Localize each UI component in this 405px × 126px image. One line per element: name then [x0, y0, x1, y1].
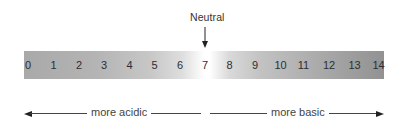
- ph-value-7: 7: [202, 59, 208, 71]
- neutral-label: Neutral: [190, 11, 220, 23]
- ph-value-5: 5: [151, 59, 157, 71]
- ph-value-13: 13: [348, 59, 360, 71]
- ph-value-4: 4: [126, 59, 132, 71]
- ph-value-2: 2: [76, 59, 82, 71]
- basic-direction: more basic: [210, 106, 386, 120]
- right-arrow-icon: [376, 111, 384, 117]
- ph-value-1: 1: [50, 59, 56, 71]
- ph-value-0: 0: [25, 59, 31, 71]
- acidic-direction: more acidic: [24, 106, 201, 120]
- ph-value-12: 12: [323, 59, 335, 71]
- ph-value-9: 9: [252, 59, 258, 71]
- ph-value-14: 14: [372, 59, 384, 71]
- acidic-label: more acidic: [87, 106, 151, 118]
- ph-value-3: 3: [101, 59, 107, 71]
- ph-value-10: 10: [274, 59, 286, 71]
- down-arrow-icon: [204, 27, 206, 48]
- ph-value-6: 6: [177, 59, 183, 71]
- basic-label: more basic: [267, 106, 329, 118]
- ph-value-8: 8: [226, 59, 232, 71]
- ph-value-11: 11: [298, 59, 309, 71]
